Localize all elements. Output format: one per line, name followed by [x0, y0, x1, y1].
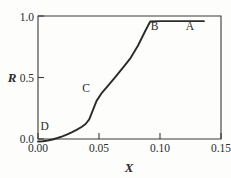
annotation-label-c: C [82, 82, 90, 94]
annotation-label-a: A [186, 20, 195, 32]
x-ticklabel-3: 0.15 [211, 142, 231, 154]
x-axis-title: X [124, 160, 134, 175]
line-chart-svg: 0.00 0.05 0.10 0.15 0.0 0.5 1.0 R X A B … [0, 0, 231, 178]
x-ticklabel-1: 0.05 [89, 142, 109, 154]
y-ticklabel-0: 0.0 [20, 133, 35, 145]
annotation-label-d: D [41, 120, 49, 132]
y-ticklabel-2: 1.0 [20, 11, 35, 23]
y-ticklabel-1: 0.5 [20, 72, 35, 84]
y-axis-title: R [7, 70, 17, 85]
x-ticklabel-2: 0.10 [150, 142, 170, 154]
annotation-label-b: B [151, 20, 159, 32]
chart-figure: 0.00 0.05 0.10 0.15 0.0 0.5 1.0 R X A B … [0, 0, 231, 178]
